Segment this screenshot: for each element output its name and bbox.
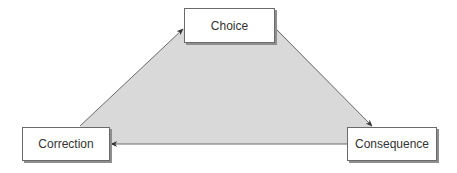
- node-correction-label: Correction: [38, 137, 93, 151]
- triangle-fill: [80, 28, 372, 144]
- node-correction: Correction: [22, 127, 110, 161]
- node-consequence-label: Consequence: [355, 137, 429, 151]
- node-choice-label: Choice: [211, 19, 248, 33]
- node-choice: Choice: [184, 8, 275, 43]
- node-consequence: Consequence: [347, 127, 437, 161]
